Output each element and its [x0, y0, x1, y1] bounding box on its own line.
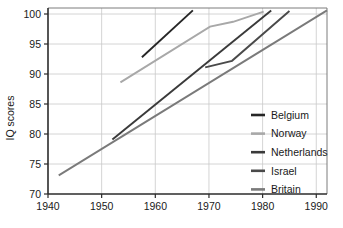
y-tick-label-80: 80: [29, 128, 41, 140]
y-tick-label-85: 85: [29, 98, 41, 110]
y-tick-label-70: 70: [29, 188, 41, 200]
y-axis-title-text: IQ scores: [4, 96, 16, 141]
iq-scores-line-chart: 707580859095100 194019501960197019801990…: [0, 0, 343, 228]
x-tick-label-1980: 1980: [251, 200, 275, 212]
x-tick-label-1970: 1970: [197, 200, 221, 212]
y-tick-label-100: 100: [23, 8, 41, 20]
legend-label-belgium: Belgium: [271, 109, 309, 121]
y-axis-title: IQ scores: [4, 96, 16, 141]
legend-label-norway: Norway: [271, 127, 307, 139]
x-tick-label-1960: 1960: [144, 200, 168, 212]
x-axis-tick-labels: 194019501960197019801990: [36, 200, 328, 212]
legend-label-britain: Britain: [271, 183, 301, 195]
y-tick-label-90: 90: [29, 68, 41, 80]
x-tick-label-1940: 1940: [36, 200, 60, 212]
legend-label-israel: Israel: [271, 165, 297, 177]
legend-label-netherlands: Netherlands: [271, 146, 328, 158]
y-axis-tick-labels: 707580859095100: [23, 8, 41, 200]
x-tick-label-1950: 1950: [90, 200, 114, 212]
y-tick-label-95: 95: [29, 38, 41, 50]
chart-canvas: 707580859095100 194019501960197019801990…: [0, 0, 343, 228]
y-tick-label-75: 75: [29, 158, 41, 170]
x-tick-label-1990: 1990: [305, 200, 329, 212]
